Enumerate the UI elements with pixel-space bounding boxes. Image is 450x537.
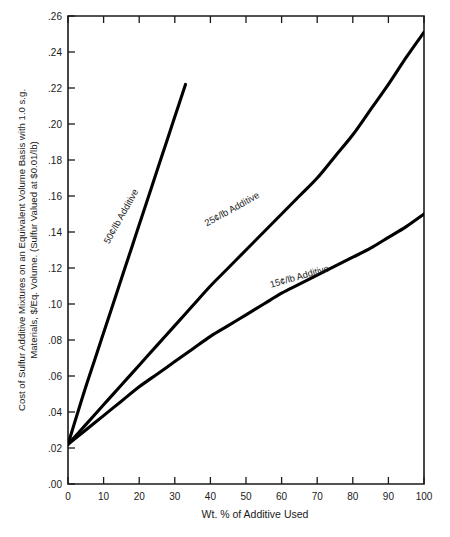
x-tick-label: 0	[65, 491, 71, 502]
y-tick-label: .10	[48, 299, 62, 310]
x-tick-label: 30	[169, 491, 181, 502]
y-axis-title-line-1: Cost of Sulfur Additive Mixtures on an E…	[16, 89, 27, 411]
x-tick-label: 10	[98, 491, 110, 502]
y-tick-label: .22	[48, 83, 62, 94]
x-tick-label: 90	[383, 491, 395, 502]
y-tick-label: .20	[48, 119, 62, 130]
y-axis-ticks: .00.02.04.06.08.10.12.14.16.18.20.22.24.…	[48, 11, 75, 490]
y-axis-title: Cost of Sulfur Additive Mixtures on an E…	[16, 89, 39, 411]
x-axis-ticks: 0102030405060708090100	[65, 16, 433, 502]
y-tick-label: .24	[48, 47, 62, 58]
y-tick-label: .18	[48, 155, 62, 166]
y-tick-label: .00	[48, 479, 62, 490]
y-tick-label: .04	[48, 407, 62, 418]
y-tick-label: .06	[48, 371, 62, 382]
x-tick-label: 80	[347, 491, 359, 502]
y-tick-label: .12	[48, 263, 62, 274]
y-tick-label: .26	[48, 11, 62, 22]
cost-vs-additive-line-chart: Cost of Sulfur Additive Mixtures on an E…	[0, 0, 450, 537]
series-line	[68, 84, 185, 444]
y-tick-label: .08	[48, 335, 62, 346]
x-tick-label: 100	[416, 491, 433, 502]
y-tick-label: .14	[48, 227, 62, 238]
y-axis-title-line-2: Materials, $/Eq. Volume. (Sulfur Valued …	[28, 141, 39, 358]
x-tick-label: 60	[276, 491, 288, 502]
y-tick-label: .16	[48, 191, 62, 202]
y-tick-label: .02	[48, 443, 62, 454]
x-tick-label: 70	[312, 491, 324, 502]
chart-figure: Cost of Sulfur Additive Mixtures on an E…	[0, 0, 450, 537]
data-series-group	[68, 32, 424, 444]
series-line	[68, 32, 424, 444]
series-inline-label: 25¢/lb Additive	[202, 189, 261, 228]
x-tick-label: 50	[240, 491, 252, 502]
x-axis-title: Wt. % of Additive Used	[202, 508, 309, 520]
x-tick-label: 40	[205, 491, 217, 502]
x-tick-label: 20	[134, 491, 146, 502]
